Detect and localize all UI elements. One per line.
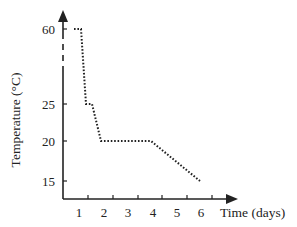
temperature-series <box>74 29 200 181</box>
y-axis-label: Temperature (°C) <box>8 73 23 168</box>
chart: 60 25 20 15 1 2 3 4 5 6 Time (days) Temp… <box>0 0 297 227</box>
x-tick-3: 3 <box>125 205 132 220</box>
y-axis-arrow-icon <box>58 10 68 22</box>
x-tick-1: 1 <box>76 205 83 220</box>
y-axis <box>58 10 68 199</box>
x-axis <box>63 194 238 204</box>
x-tick-5: 5 <box>174 205 181 220</box>
x-tick-6: 6 <box>198 205 205 220</box>
y-tick-60: 60 <box>42 22 55 37</box>
x-tick-2: 2 <box>101 205 108 220</box>
x-axis-arrow-icon <box>226 194 238 204</box>
y-tick-20: 20 <box>42 134 55 149</box>
x-axis-label: Time (days) <box>220 205 285 220</box>
x-tick-4: 4 <box>150 205 157 220</box>
y-tick-15: 15 <box>42 174 55 189</box>
y-tick-25: 25 <box>42 97 55 112</box>
